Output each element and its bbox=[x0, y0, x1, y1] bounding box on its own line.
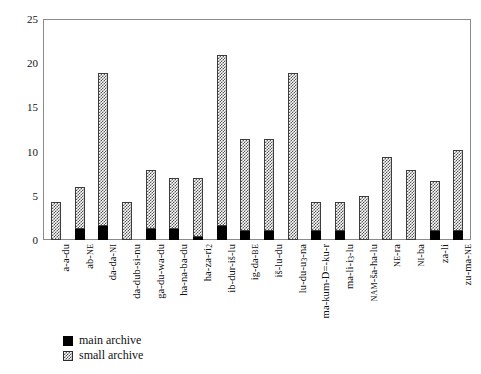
bar-segment-main-archive bbox=[430, 231, 440, 240]
bar-segment-small-archive bbox=[335, 202, 345, 231]
bar-segment-small-archive bbox=[382, 157, 392, 240]
bar-NE-ra bbox=[382, 157, 392, 240]
x-label-ha-za-ri2: ha-za-ri2 bbox=[202, 244, 215, 344]
x-label-lu-du-u3-na: lu-du-u3-na bbox=[297, 244, 310, 344]
bar-segment-small-archive bbox=[217, 55, 227, 226]
x-axis-labels: a-a-duab-NEda-da-NIda-dub-si-nuga-du-wa-… bbox=[44, 244, 470, 344]
y-tick-25: 25 bbox=[8, 14, 38, 25]
bar-ga-du-wa-du bbox=[146, 170, 156, 240]
bar-ha-za-ri2 bbox=[193, 178, 203, 240]
bar-segment-small-archive bbox=[311, 202, 321, 231]
x-label-ig-da-BE: ig-da-BE bbox=[249, 244, 261, 344]
x-label-da-dub-si-nu: da-dub-si-nu bbox=[131, 244, 142, 344]
solid-black-swatch-icon bbox=[63, 336, 73, 346]
x-label-NE-ra: NE-ra bbox=[391, 244, 403, 344]
x-label-ga-du-wa-du: ga-du-wa-du bbox=[155, 244, 166, 344]
bar-segment-main-archive bbox=[335, 231, 345, 240]
bar-ig-da-BE bbox=[240, 139, 250, 240]
bar-ib-dur-is-lu bbox=[217, 55, 227, 240]
bar-segment-small-archive bbox=[193, 178, 203, 237]
bar-segment-small-archive bbox=[146, 170, 156, 230]
x-label-ab-NE: ab-NE bbox=[84, 244, 96, 344]
bar-chart: 25 20 15 10 5 0 a-a-duab-NEda-da-NIda-du… bbox=[0, 0, 481, 374]
bar-ma-kum-D=-ku-r bbox=[311, 202, 321, 240]
x-label-ma-li-i3-lu: ma-li-i3-lu bbox=[344, 244, 357, 344]
x-label-a-a-du: a-a-du bbox=[60, 244, 71, 344]
bar-segment-main-archive bbox=[75, 229, 85, 240]
bar-segment-main-archive bbox=[264, 231, 274, 240]
bar-segment-small-archive bbox=[75, 187, 85, 229]
legend-item-main-archive: main archive bbox=[63, 333, 143, 348]
bar-is-lu-du bbox=[264, 139, 274, 240]
bar-a-a-du bbox=[51, 202, 61, 240]
bar-ha-na-ba-du bbox=[169, 178, 179, 240]
bar-segment-small-archive bbox=[264, 139, 274, 231]
bar-segment-small-archive bbox=[240, 139, 250, 231]
bar-segment-small-archive bbox=[288, 73, 298, 240]
bar-segment-main-archive bbox=[240, 231, 250, 240]
x-label-ha-na-ba-du: ha-na-ba-du bbox=[178, 244, 189, 344]
y-tick-10: 10 bbox=[8, 147, 38, 158]
x-label-ib-dur-is-lu: ib-dur-iš-lu bbox=[226, 244, 237, 344]
bar-segment-small-archive bbox=[430, 181, 440, 231]
x-label-NAM-sa-ha-lu: NAM-ša-ha-lu bbox=[368, 244, 380, 344]
checkered-swatch-icon bbox=[63, 351, 73, 361]
bar-segment-main-archive bbox=[311, 231, 321, 240]
bar-segment-small-archive bbox=[453, 150, 463, 231]
bar-segment-small-archive bbox=[406, 170, 416, 240]
bar-segment-main-archive bbox=[217, 226, 227, 240]
bar-NAM-sa-ha-lu bbox=[359, 196, 369, 240]
bar-segment-small-archive bbox=[359, 196, 369, 240]
x-label-is-lu-du: iš-lu-du bbox=[273, 244, 284, 344]
bar-segment-small-archive bbox=[169, 178, 179, 229]
bar-segment-main-archive bbox=[146, 229, 156, 240]
legend-label-small-archive: small archive bbox=[79, 348, 143, 363]
bar-da-dub-si-nu bbox=[122, 202, 132, 240]
x-label-NI-ba: NI-ba bbox=[415, 244, 427, 344]
bar-lu-du-u3-na bbox=[288, 73, 298, 240]
bar-segment-main-archive bbox=[453, 231, 463, 240]
y-tick-20: 20 bbox=[8, 58, 38, 69]
bar-zu-ma-NE bbox=[453, 150, 463, 240]
y-tick-15: 15 bbox=[8, 102, 38, 113]
bar-segment-main-archive bbox=[193, 237, 203, 240]
bar-segment-main-archive bbox=[98, 226, 108, 240]
x-label-ma-kum-D=-ku-r: ma-kum-D=-ku-r bbox=[320, 244, 331, 344]
bar-segment-small-archive bbox=[122, 202, 132, 240]
y-tick-5: 5 bbox=[8, 191, 38, 202]
bars-layer bbox=[44, 20, 470, 240]
bar-ab-NE bbox=[75, 187, 85, 240]
x-label-za-li: za-li bbox=[439, 244, 450, 344]
chart-legend: main archive small archive bbox=[63, 333, 143, 363]
x-label-zu-ma-NE: zu-ma-NE bbox=[462, 244, 474, 344]
x-label-da-da-NI: da-da-NI bbox=[107, 244, 119, 344]
bar-NI-ba bbox=[406, 170, 416, 240]
bar-ma-li-i3-lu bbox=[335, 202, 345, 240]
bar-za-li bbox=[430, 181, 440, 240]
legend-item-small-archive: small archive bbox=[63, 348, 143, 363]
bar-da-da-NI bbox=[98, 73, 108, 240]
bar-segment-main-archive bbox=[169, 229, 179, 240]
y-tick-0: 0 bbox=[8, 235, 38, 246]
legend-label-main-archive: main archive bbox=[79, 333, 141, 348]
bar-segment-small-archive bbox=[98, 73, 108, 226]
bar-segment-small-archive bbox=[51, 202, 61, 240]
